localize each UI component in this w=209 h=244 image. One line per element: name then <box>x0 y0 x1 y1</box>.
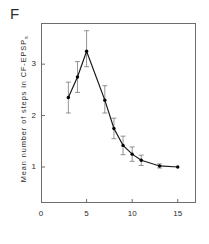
x-tick-label: 10 <box>124 209 140 218</box>
y-tick-label: 2 <box>22 111 36 120</box>
figure-panel: F Mean number of steps in CF-EPSPs 123 0… <box>0 0 209 244</box>
error-bars <box>66 31 162 168</box>
y-tick-label: 1 <box>22 162 36 171</box>
x-tick-label: 5 <box>79 209 95 218</box>
x-tick-label: 15 <box>170 209 186 218</box>
y-tick-label: 3 <box>22 59 36 68</box>
chart-canvas <box>0 0 209 244</box>
x-tick-label: 0 <box>33 209 49 218</box>
axis-ticks <box>41 64 178 203</box>
